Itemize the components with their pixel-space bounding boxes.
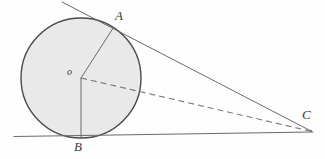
label-point-a: A — [115, 9, 123, 22]
vertex-point-c — [310, 130, 312, 132]
geometry-diagram — [0, 0, 325, 159]
label-point-c: C — [302, 108, 311, 121]
geometry-figure: A B C o — [0, 0, 325, 159]
label-point-b: B — [74, 140, 82, 153]
label-center-o: o — [67, 67, 72, 77]
